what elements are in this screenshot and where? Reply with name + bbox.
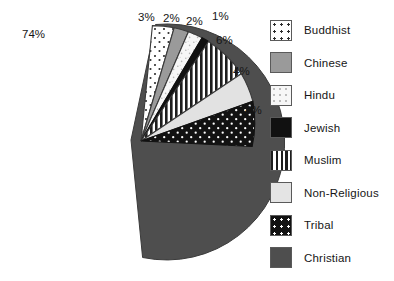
legend-label-tribal: Tribal (304, 219, 334, 231)
legend-item-chinese: Chinese (270, 47, 394, 80)
pie-label-non-religious: 4% (233, 65, 250, 77)
legend-label-muslim: Muslim (304, 154, 342, 166)
legend-swatch-buddhist (270, 20, 292, 41)
legend-label-buddhist: Buddhist (304, 24, 350, 36)
legend-swatch-hindu (270, 85, 292, 106)
legend-swatch-muslim (270, 150, 292, 171)
legend-swatch-tribal (270, 215, 292, 236)
chart-legend: Buddhist Chinese Hindu Jewish Muslim Non… (270, 14, 394, 274)
legend-item-jewish: Jewish (270, 112, 394, 145)
legend-swatch-jewish (270, 117, 292, 138)
legend-label-christian: Christian (304, 252, 351, 264)
legend-item-non-religious: Non-Religious (270, 177, 394, 210)
legend-label-non-religious: Non-Religious (304, 187, 379, 199)
legend-item-hindu: Hindu (270, 79, 394, 112)
pie-label-buddhist: 3% (138, 11, 155, 23)
legend-label-hindu: Hindu (304, 89, 335, 101)
legend-label-jewish: Jewish (304, 122, 340, 134)
legend-swatch-non-religious (270, 182, 292, 203)
legend-swatch-chinese (270, 52, 292, 73)
pie-label-hindu: 2% (186, 15, 203, 27)
pie-label-chinese: 2% (163, 12, 180, 24)
legend-label-chinese: Chinese (304, 57, 348, 69)
legend-item-tribal: Tribal (270, 209, 394, 242)
pie-chart-figure: 74% 3% 2% 2% 1% 6% 4% 8% Buddhist Chines… (0, 0, 394, 281)
legend-item-buddhist: Buddhist (270, 14, 394, 47)
pie-label-christian: 74% (22, 28, 45, 40)
pie-label-jewish: 1% (212, 10, 229, 22)
legend-item-christian: Christian (270, 242, 394, 275)
legend-swatch-christian (270, 247, 292, 268)
pie-label-muslim: 6% (216, 34, 233, 46)
pie-label-tribal: 8% (245, 104, 262, 116)
legend-item-muslim: Muslim (270, 144, 394, 177)
